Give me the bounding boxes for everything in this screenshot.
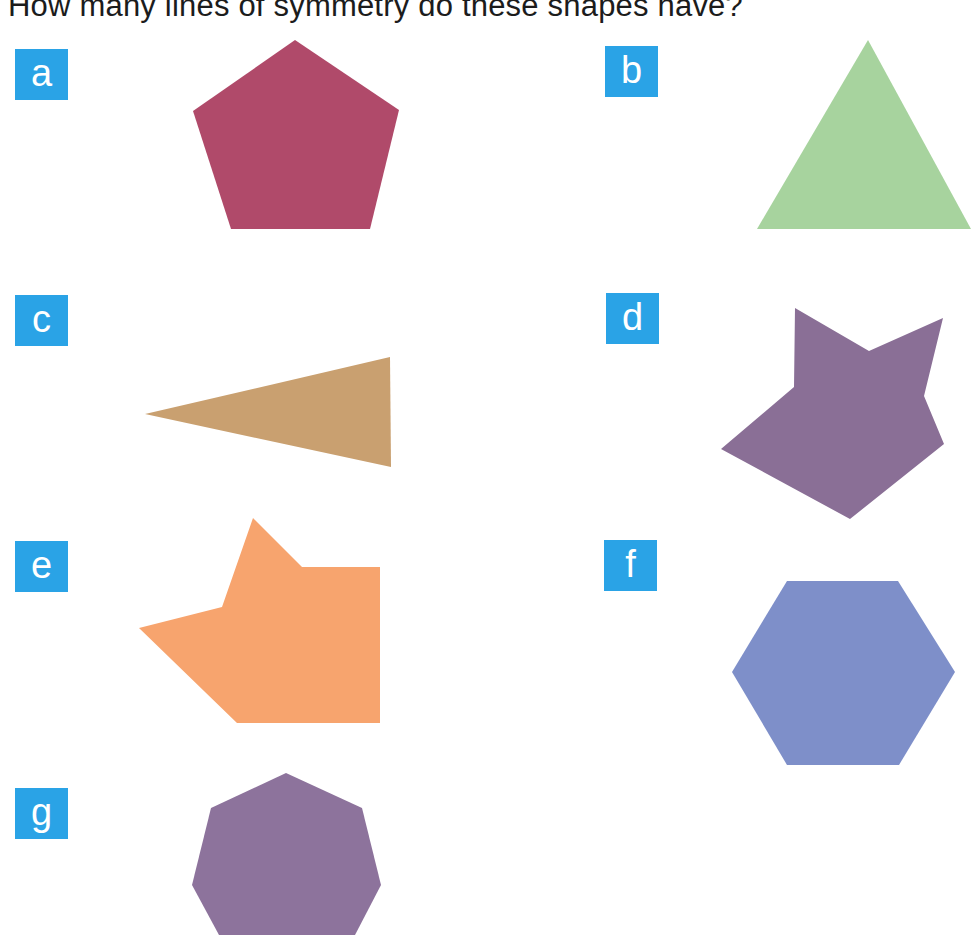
shape-c-triangle: [145, 357, 391, 467]
shape-g-heptagon: [192, 773, 381, 935]
shape-f-hexagon: [732, 581, 955, 765]
shape-a-pentagon: [193, 40, 399, 229]
shape-b-triangle: [757, 40, 971, 229]
shape-d-star-polygon: [721, 308, 944, 519]
shape-e-arrow-polygon: [139, 518, 380, 723]
shapes-canvas: [0, 0, 971, 935]
